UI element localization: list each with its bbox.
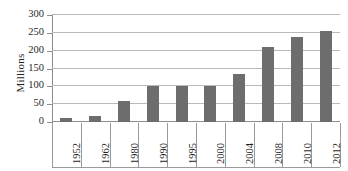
x-axis-tick-label: 1962 <box>100 124 111 164</box>
x-axis-tick-label: 2008 <box>273 124 284 164</box>
y-axis-tick-label: 150 <box>4 63 44 73</box>
x-axis-tick-label: 1980 <box>129 124 140 164</box>
bar <box>176 86 188 122</box>
bar <box>204 86 216 122</box>
bar-chart: Millions 300250200150100500 195219621980… <box>0 0 348 171</box>
bar <box>147 86 159 122</box>
x-axis-separator <box>52 123 53 167</box>
y-axis-tick-label: 0 <box>4 116 44 126</box>
bar <box>60 118 72 122</box>
x-axis-tick-label: 1990 <box>158 124 169 164</box>
x-axis-tick-label: 2012 <box>331 124 342 164</box>
x-axis-tick-label: 2004 <box>244 124 255 164</box>
y-axis-tick-label: 250 <box>4 27 44 37</box>
y-axis-tick-label: 100 <box>4 80 44 90</box>
bar <box>291 37 303 122</box>
bar <box>320 31 332 122</box>
x-axis-tick-label: 2010 <box>302 124 313 164</box>
bar <box>262 47 274 122</box>
bar <box>233 74 245 123</box>
y-axis-tick-label: 300 <box>4 9 44 19</box>
y-axis-tick-label: 50 <box>4 98 44 108</box>
x-axis-tick-label: 1952 <box>71 124 82 164</box>
x-axis-tick-label: 2000 <box>215 124 226 164</box>
plot-area <box>52 15 340 122</box>
bar <box>118 101 130 122</box>
bar <box>89 116 101 122</box>
x-axis-tick-label: 1995 <box>187 124 198 164</box>
y-axis-tick-label: 200 <box>4 45 44 55</box>
x-axis-labels: 1952196219801990199520002004200820102012 <box>52 123 340 171</box>
x-axis-bottom-line <box>52 167 340 168</box>
bars-layer <box>52 15 340 122</box>
